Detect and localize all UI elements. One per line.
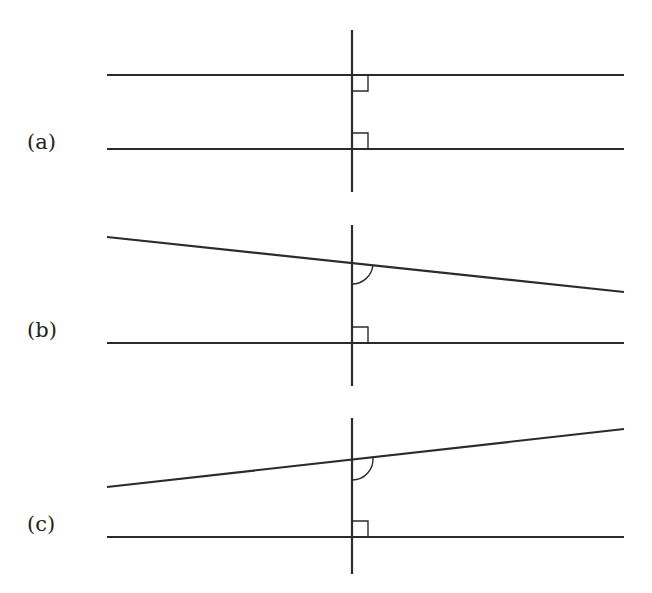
panel-a-label: (a) bbox=[27, 132, 56, 153]
panel-b-bottom-right-angle-marker bbox=[352, 327, 368, 343]
panel-b bbox=[107, 225, 624, 386]
panel-b-top-sloped-line bbox=[107, 237, 624, 292]
panel-c bbox=[107, 418, 624, 574]
panel-c-bottom-right-angle-marker bbox=[352, 521, 368, 537]
diagram-canvas: (a) (b) (c) bbox=[0, 0, 652, 593]
diagram-svg bbox=[0, 0, 652, 593]
panel-c-top-sloped-line bbox=[107, 429, 624, 487]
panel-a bbox=[107, 30, 624, 192]
panel-a-top-right-angle-marker bbox=[352, 75, 368, 91]
panel-c-label: (c) bbox=[27, 514, 55, 535]
panel-b-label: (b) bbox=[27, 320, 57, 341]
panel-b-angle-arc bbox=[352, 265, 373, 284]
panel-a-bottom-right-angle-marker bbox=[352, 133, 368, 149]
